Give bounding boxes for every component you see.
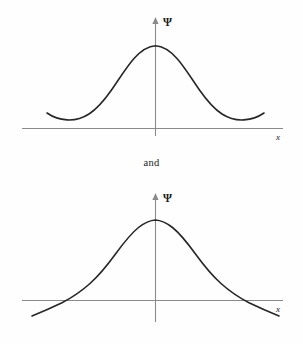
lower-plot-svg: Ψ x bbox=[0, 180, 303, 344]
lower-wavefunction-plot: Ψ x bbox=[0, 180, 303, 344]
up-arrow-icon bbox=[152, 193, 158, 200]
up-arrow-icon bbox=[152, 17, 158, 24]
lower-y-axis-label: Ψ bbox=[163, 192, 172, 204]
conjunction-text: and bbox=[0, 157, 303, 168]
upper-wavefunction-plot: Ψ x bbox=[0, 0, 303, 150]
upper-y-axis-label: Ψ bbox=[163, 16, 172, 28]
lower-x-axis-label: x bbox=[275, 304, 280, 314]
wavefunction-figure: Ψ x and Ψ x bbox=[0, 0, 303, 344]
upper-plot-svg: Ψ x bbox=[0, 0, 303, 150]
upper-x-axis-label: x bbox=[275, 132, 280, 142]
